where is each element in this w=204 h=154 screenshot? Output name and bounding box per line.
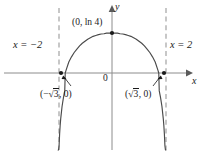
label-vertex-point: (0, ln 4) (72, 18, 102, 28)
root-left-marker (59, 71, 63, 75)
label-origin: 0 (103, 74, 108, 84)
label-x-axis: x (192, 76, 196, 86)
root-left-close-paren: , 0) (59, 89, 72, 99)
root-right-leader-arrow (153, 76, 163, 86)
root-left-open-paren: (− (40, 89, 49, 99)
label-root-right-point: (√3, 0) (125, 90, 151, 100)
label-left-asymptote: x = −2 (13, 40, 42, 51)
root-left-leader-arrow (62, 76, 71, 86)
root-right-close-paren: , 0) (139, 89, 152, 99)
label-right-asymptote: x = 2 (170, 40, 192, 51)
y-axis (109, 5, 116, 150)
root-right-marker (162, 71, 166, 75)
label-root-left-point: (−√3, 0) (40, 90, 72, 100)
math-figure-log-curve: x = −2 x = 2 (0, ln 4) 0 x y (−√3, 0) (√… (0, 0, 204, 154)
vertex-marker (110, 31, 114, 35)
label-y-axis: y (115, 2, 119, 12)
